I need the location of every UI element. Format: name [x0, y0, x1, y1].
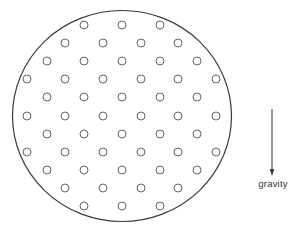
particle: [118, 130, 126, 138]
particle: [118, 21, 126, 29]
particle: [137, 112, 145, 120]
particle: [80, 202, 88, 210]
particle: [23, 148, 31, 156]
particle: [99, 39, 107, 47]
particle: [212, 148, 220, 156]
particle: [118, 202, 126, 210]
particle-lattice: [23, 21, 220, 210]
particle: [193, 57, 201, 65]
particle: [137, 39, 145, 47]
particle: [99, 148, 107, 156]
particle: [137, 75, 145, 83]
particle: [174, 184, 182, 192]
gravity-label: gravity: [258, 178, 287, 189]
particle: [43, 57, 51, 65]
particle: [61, 39, 69, 47]
particle: [193, 93, 201, 101]
particle: [80, 130, 88, 138]
particle: [99, 75, 107, 83]
particle: [174, 112, 182, 120]
gravity-arrow-head: [270, 169, 274, 176]
particle: [99, 184, 107, 192]
particle: [61, 148, 69, 156]
particle: [23, 112, 31, 120]
container-circle: [13, 11, 232, 222]
particle: [174, 75, 182, 83]
particle: [212, 75, 220, 83]
particle: [212, 112, 220, 120]
particle: [61, 184, 69, 192]
particle: [156, 166, 164, 174]
particle: [156, 21, 164, 29]
particle: [80, 21, 88, 29]
particle: [23, 75, 31, 83]
particle: [80, 166, 88, 174]
particle: [137, 184, 145, 192]
particle: [156, 130, 164, 138]
particle: [43, 93, 51, 101]
particle: [137, 148, 145, 156]
particle: [61, 112, 69, 120]
particle: [118, 166, 126, 174]
particle: [80, 93, 88, 101]
arrow-down-icon: [270, 109, 274, 176]
particle: [118, 57, 126, 65]
particle: [43, 166, 51, 174]
particle: [61, 75, 69, 83]
particle: [99, 112, 107, 120]
particle: [156, 57, 164, 65]
particle: [156, 93, 164, 101]
particle: [43, 130, 51, 138]
particle: [193, 130, 201, 138]
particle: [156, 202, 164, 210]
particle: [80, 57, 88, 65]
particle: [193, 166, 201, 174]
particle: [174, 148, 182, 156]
diagram-canvas: [0, 0, 303, 231]
particle: [118, 93, 126, 101]
particle: [174, 39, 182, 47]
